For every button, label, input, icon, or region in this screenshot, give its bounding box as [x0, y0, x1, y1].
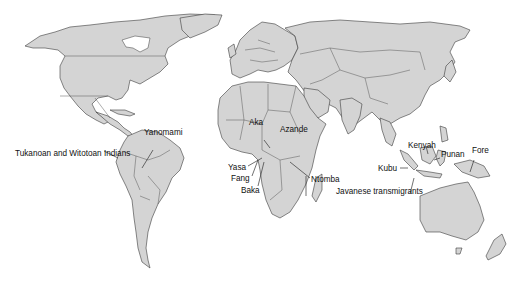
greenland — [180, 14, 222, 38]
australia — [420, 182, 484, 240]
new-zealand — [486, 234, 506, 260]
label-aka: Aka — [249, 119, 263, 127]
label-kubu: Kubu — [378, 165, 397, 173]
india — [340, 98, 362, 134]
label-punan: Punan — [441, 151, 465, 159]
label-ntomba: Ntomba — [311, 176, 340, 184]
tasmania — [456, 248, 462, 254]
label-tukanoan: Tukanoan and Witotoan Indians — [15, 150, 130, 158]
label-javanese: Javanese transmigrants — [336, 188, 423, 196]
label-fang: Fang — [231, 175, 250, 183]
label-fore: Fore — [472, 147, 489, 155]
label-azande: Azande — [280, 126, 308, 134]
world-map — [0, 0, 528, 288]
label-yanomami: Yanomami — [144, 129, 183, 137]
java — [416, 170, 442, 178]
philippines — [440, 126, 448, 142]
label-yasa: Yasa — [228, 164, 246, 172]
sumatra — [400, 150, 418, 170]
new-guinea — [454, 160, 490, 178]
label-kenyah: Kenyah — [408, 142, 436, 150]
caribbean — [110, 110, 135, 116]
se-asia — [380, 118, 396, 146]
label-baka: Baka — [241, 187, 260, 195]
